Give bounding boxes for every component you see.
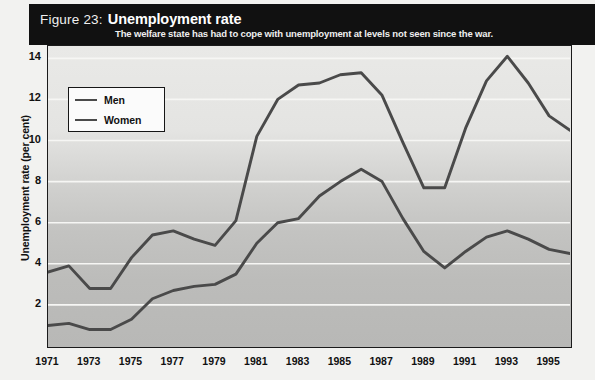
chart-legend: Men Women — [68, 87, 165, 132]
y-axis-tick-label: 14 — [15, 50, 41, 62]
legend-item-women: Women — [75, 112, 141, 128]
page-title: Unemployment rate — [108, 11, 242, 27]
figure-header-banner: Figure 23:Unemployment rate The welfare … — [29, 4, 595, 45]
figure-number-label: Figure 23: — [40, 12, 103, 27]
y-axis-title: Unemployment rate (per cent) — [19, 88, 31, 288]
legend-label-women: Women — [104, 114, 141, 126]
x-axis-tick-label: 1971 — [27, 355, 67, 367]
figure-subtitle: The welfare state has had to cope with u… — [115, 28, 493, 39]
x-axis-tick-label: 1995 — [528, 355, 568, 367]
legend-line-swatch-men — [75, 99, 97, 102]
legend-label-men: Men — [104, 94, 125, 106]
figure-container: Figure 23:Unemployment rate The welfare … — [0, 0, 595, 380]
x-axis-tick-label: 1977 — [152, 355, 192, 367]
x-axis-tick-label: 1979 — [194, 355, 234, 367]
x-axis-tick-label: 1981 — [236, 355, 276, 367]
series-line-women — [48, 169, 570, 329]
x-axis-tick-label: 1987 — [361, 355, 401, 367]
x-axis-tick-label: 1989 — [403, 355, 443, 367]
legend-item-men: Men — [75, 92, 125, 108]
y-axis-tick-label: 2 — [15, 297, 41, 309]
x-axis-tick-label: 1991 — [445, 355, 485, 367]
x-axis-tick-label: 1985 — [319, 355, 359, 367]
x-axis-tick-label: 1975 — [111, 355, 151, 367]
figure-header-title-line: Figure 23:Unemployment rate — [40, 10, 241, 28]
x-axis-tick-label: 1983 — [278, 355, 318, 367]
x-axis-tick-label: 1993 — [486, 355, 526, 367]
x-axis-tick-label: 1973 — [69, 355, 109, 367]
legend-line-swatch-women — [75, 119, 97, 122]
